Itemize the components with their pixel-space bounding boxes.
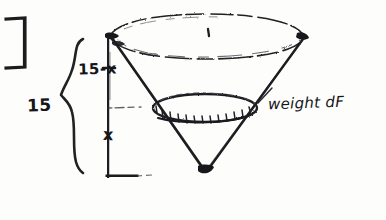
cone-top-rim-ellipse [110, 14, 304, 59]
axis-tick-bottom [107, 175, 152, 176]
label-total-height: 15 [27, 95, 52, 116]
height-brace [61, 39, 83, 173]
label-disk-height: x [103, 125, 114, 145]
left-bracket-mark [6, 18, 25, 68]
label-weight-dF: weight dF [268, 93, 345, 114]
disk-hatching [156, 106, 251, 123]
cone-slant-left [112, 38, 205, 171]
axis-tick-middle [108, 107, 141, 108]
vertical-axis [108, 36, 110, 178]
cone-apex [198, 165, 214, 174]
label-height-above-disk: 15-x [78, 59, 117, 78]
sketch-page: 15-x 15 x weight dF [0, 0, 386, 220]
